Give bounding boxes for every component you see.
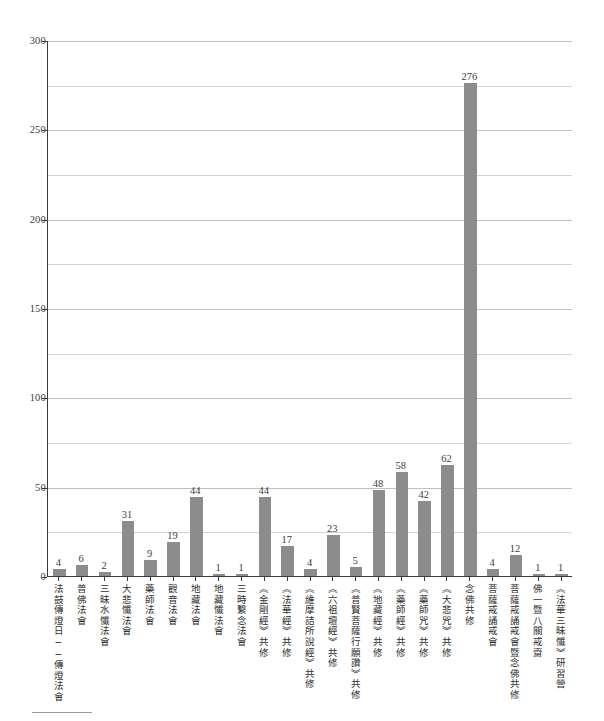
y-axis-tick-mark [42,488,47,489]
bar[interactable] [304,569,317,576]
bar-value-label: 42 [404,489,444,500]
gridline-major [48,488,572,489]
gridline-major [48,41,572,42]
x-axis-category-label: 藥師法會 [144,584,155,626]
gridline-major [48,130,572,131]
bar-value-label: 5 [335,555,375,566]
x-axis-tick-mark [401,577,402,581]
x-axis-category-label: 三時繫念法會 [236,584,247,648]
gridline-minor [48,443,572,444]
x-axis-category-label: 《藥師經》共修 [395,584,406,658]
bar-value-label: 23 [312,523,352,534]
bar-value-label: 4 [290,557,330,568]
x-axis-category-label: 菩薩戒誦戒會 [487,584,498,648]
x-axis-category-label: 《地藏經》共修 [372,584,383,658]
bar-value-label: 17 [267,534,307,545]
x-axis-category-label: 《金剛經》共修 [258,584,269,658]
x-axis-category-label: 菩薩戒誦戒會暨念佛共修 [509,584,520,701]
gridline-major [48,220,572,221]
x-axis-tick-mark [81,577,82,581]
x-axis-category-label: 地藏法會 [190,584,201,626]
y-axis-tick-mark [42,220,47,221]
x-axis-tick-mark [241,577,242,581]
y-axis-tick-label: 300 [2,36,46,46]
x-axis-category-label: 大悲懺法會 [121,584,132,637]
bar[interactable] [555,574,568,576]
y-axis-tick-label: 50 [2,483,46,493]
x-axis-tick-mark [424,577,425,581]
x-axis-tick-mark [127,577,128,581]
x-axis-tick-mark [378,577,379,581]
x-axis-category-label: 《大悲咒》共修 [441,584,452,658]
bar[interactable] [144,560,157,576]
x-axis-category-label: 三昧水懺法會 [99,584,110,648]
bar-value-label: 2 [84,560,124,571]
plot-area [47,41,572,577]
x-axis-tick-mark [104,577,105,581]
bar-value-label: 1 [541,562,581,573]
bar[interactable] [99,572,112,576]
bar-value-label: 44 [244,485,284,496]
x-axis-tick-mark [173,577,174,581]
y-axis-tick-mark [42,577,47,578]
x-axis-tick-mark [150,577,151,581]
x-axis-tick-mark [58,577,59,581]
x-axis-category-label: 《法華三昧懺》研習營 [555,584,566,690]
x-axis-category-label: 《維摩詰所說經》共修 [304,584,315,690]
bar-value-label: 1 [221,562,261,573]
bar-value-label: 9 [130,548,170,559]
bar[interactable] [350,567,363,576]
x-axis-category-label: 地藏懺法會 [213,584,224,637]
y-axis-tick-mark [42,130,47,131]
page-footer-rule [32,712,92,713]
x-axis-category-label: 《六祖壇經》共修 [327,584,338,669]
x-axis-category-label: 觀音法會 [167,584,178,626]
bar[interactable] [464,83,477,576]
gridline-major [48,309,572,310]
x-axis-tick-mark [195,577,196,581]
x-axis-tick-mark [492,577,493,581]
bar-chart: 0501001502002503004法鼓傳燈日──傳燈法會6普佛法會2三昧水懺… [0,0,604,721]
gridline-minor [48,86,572,87]
bar-value-label: 48 [358,478,398,489]
bar-value-label: 12 [495,543,535,554]
bar-value-label: 31 [107,509,147,520]
bar-value-label: 4 [472,557,512,568]
bar[interactable] [533,574,546,576]
bar-value-label: 44 [175,485,215,496]
gridline-minor [48,264,572,265]
y-axis-tick-label: 0 [2,572,46,582]
y-axis-tick-mark [42,41,47,42]
x-axis-category-label: 法鼓傳燈日──傳燈法會 [53,584,64,703]
y-axis-tick-label: 250 [2,125,46,135]
y-axis-tick-mark [42,309,47,310]
x-axis-tick-mark [264,577,265,581]
x-axis-tick-mark [218,577,219,581]
x-axis-tick-mark [310,577,311,581]
bar[interactable] [236,574,249,576]
x-axis-category-label: 普佛法會 [76,584,87,626]
x-axis-category-label: 念佛共修 [464,584,475,626]
bar-value-label: 19 [153,530,193,541]
bar-value-label: 58 [381,460,421,471]
bar[interactable] [441,465,454,576]
bar[interactable] [487,569,500,576]
x-axis-tick-mark [561,577,562,581]
bar[interactable] [418,501,431,576]
bar[interactable] [213,574,226,576]
gridline-minor [48,354,572,355]
x-axis-category-label: 《藥師咒》共修 [418,584,429,658]
x-axis-category-label: 佛一暨八關戒齋 [532,584,543,658]
y-axis-tick-label: 100 [2,393,46,403]
x-axis-tick-mark [446,577,447,581]
x-axis-tick-mark [332,577,333,581]
bar-value-label: 62 [426,453,466,464]
gridline-minor [48,175,572,176]
x-axis-tick-mark [287,577,288,581]
y-axis-tick-label: 200 [2,215,46,225]
x-axis-tick-mark [515,577,516,581]
y-axis-tick-mark [42,398,47,399]
gridline-major [48,398,572,399]
y-axis-tick-label: 150 [2,304,46,314]
bar[interactable] [53,569,66,576]
